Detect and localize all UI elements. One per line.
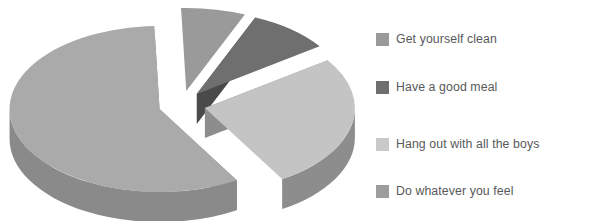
legend-item-hang-out-with-all-the-boys[interactable]: Hang out with all the boys xyxy=(376,136,539,152)
pie-plot-area xyxy=(0,0,372,221)
pie-chart-svg xyxy=(0,0,372,221)
chart-legend: Get yourself clean Have a good meal Hang… xyxy=(374,0,596,221)
pie-chart-figure: Get yourself clean Have a good meal Hang… xyxy=(0,0,596,221)
legend-item-label: Hang out with all the boys xyxy=(396,137,539,151)
legend-item-label: Do whatever you feel xyxy=(396,184,514,198)
legend-item-label: Get yourself clean xyxy=(396,32,497,46)
legend-item-get-yourself-clean[interactable]: Get yourself clean xyxy=(376,31,497,47)
legend-item-have-a-good-meal[interactable]: Have a good meal xyxy=(376,79,497,95)
legend-item-do-whatever-you-feel[interactable]: Do whatever you feel xyxy=(376,183,514,199)
legend-swatch-icon xyxy=(376,138,389,151)
legend-swatch-icon xyxy=(376,185,389,198)
legend-swatch-icon xyxy=(376,81,389,94)
legend-swatch-icon xyxy=(376,33,389,46)
legend-item-label: Have a good meal xyxy=(396,80,497,94)
